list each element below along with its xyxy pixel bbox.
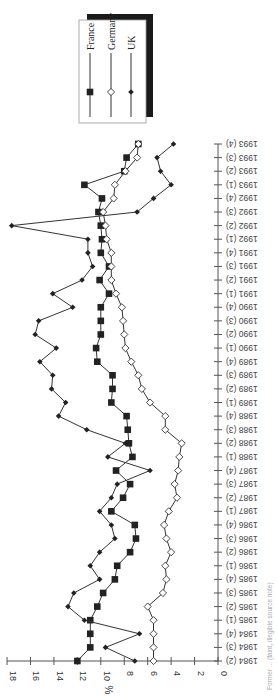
open-diamond-marker xyxy=(150,630,157,637)
legend-label-germany: Germany xyxy=(106,13,117,50)
footnote: Former ... (faint, illegible source note… xyxy=(266,582,274,690)
diamond-marker xyxy=(84,427,90,433)
category-tick-label: 1984 (3) xyxy=(226,642,258,652)
category-tick-label: 1993 (1) xyxy=(226,180,258,190)
diamond-marker xyxy=(32,332,38,338)
square-marker xyxy=(100,590,107,597)
diamond-marker xyxy=(137,631,143,637)
category-tick-label: 1987 (3) xyxy=(226,479,258,489)
open-diamond-marker xyxy=(163,576,170,583)
rotated-line-chart: 0246810121416181984 (2)1984 (3)1984 (4)1… xyxy=(0,0,277,700)
value-tick-label: 6 xyxy=(149,671,159,676)
square-marker xyxy=(81,182,88,189)
square-marker xyxy=(94,358,101,365)
category-tick-label: 1992 (4) xyxy=(226,193,258,203)
diamond-marker xyxy=(70,304,76,310)
diamond-marker xyxy=(147,468,153,474)
value-tick-label: 16 xyxy=(31,671,41,681)
series-line xyxy=(103,144,182,661)
square-marker xyxy=(129,454,136,461)
value-tick-label: 10 xyxy=(102,671,112,681)
value-tick-label: 14 xyxy=(55,671,65,681)
series-lines xyxy=(9,140,185,664)
square-marker xyxy=(124,426,131,433)
square-marker xyxy=(98,318,105,325)
open-diamond-marker xyxy=(168,549,175,556)
open-diamond-marker xyxy=(163,535,170,542)
square-marker xyxy=(123,413,130,420)
diamond-marker xyxy=(114,481,120,487)
legend-label-uk: UK xyxy=(126,35,137,50)
square-marker xyxy=(109,386,116,393)
value-tick-label: 4 xyxy=(172,671,182,676)
value-tick-label: 8 xyxy=(125,671,135,676)
open-diamond-marker xyxy=(108,276,115,283)
value-tick-label: 12 xyxy=(78,671,88,681)
category-tick-label: 1993 (3) xyxy=(226,153,258,163)
category-tick-label: 1987 (4) xyxy=(226,466,258,476)
category-tick-label: 1985 (2) xyxy=(226,602,258,612)
square-marker xyxy=(114,562,121,569)
square-marker xyxy=(113,467,120,474)
open-diamond-marker xyxy=(138,385,145,392)
diamond-marker xyxy=(103,645,109,651)
square-marker xyxy=(108,508,115,515)
category-tick-label: 1989 (3) xyxy=(226,370,258,380)
open-diamond-marker xyxy=(173,494,180,501)
category-tick-label: 1984 (4) xyxy=(226,629,258,639)
square-marker xyxy=(87,644,94,651)
open-diamond-marker xyxy=(150,617,157,624)
square-marker xyxy=(109,372,116,379)
open-diamond-marker xyxy=(171,481,178,488)
diamond-marker xyxy=(85,236,91,242)
category-tick-label: 1989 (4) xyxy=(226,357,258,367)
open-diamond-marker xyxy=(162,562,169,569)
axes: 0246810121416181984 (2)1984 (3)1984 (4)1… xyxy=(7,139,258,681)
category-tick-label: 1992 (1) xyxy=(226,234,258,244)
open-diamond-marker xyxy=(122,344,129,351)
value-tick-label: 18 xyxy=(8,671,18,681)
square-marker xyxy=(99,195,106,202)
category-tick-label: 1988 (3) xyxy=(226,425,258,435)
diamond-marker xyxy=(132,658,138,664)
category-tick-label: 1984 (2) xyxy=(226,656,258,666)
diamond-marker xyxy=(9,223,15,229)
square-marker xyxy=(87,89,94,96)
category-tick-label: 1988 (4) xyxy=(226,411,258,421)
category-tick-label: 1992 (2) xyxy=(226,221,258,231)
diamond-marker xyxy=(56,413,62,419)
value-tick-label: 2 xyxy=(196,671,206,676)
square-marker xyxy=(98,250,105,257)
category-tick-label: 1991 (4) xyxy=(226,248,258,258)
series-line xyxy=(77,144,138,661)
category-tick-label: 1987 (2) xyxy=(226,493,258,503)
open-diamond-marker xyxy=(176,453,183,460)
value-tick-label: 0 xyxy=(219,671,229,676)
category-tick-label: 1986 (2) xyxy=(226,547,258,557)
category-tick-label: 1990 (3) xyxy=(226,316,258,326)
category-tick-label: 1986 (3) xyxy=(226,534,258,544)
square-marker xyxy=(96,277,103,284)
category-tick-label: 1991 (1) xyxy=(226,289,258,299)
category-tick-label: 1988 (2) xyxy=(226,438,258,448)
category-tick-label: 1991 (2) xyxy=(226,275,258,285)
square-marker xyxy=(98,331,105,338)
diamond-marker xyxy=(85,250,91,256)
open-diamond-marker xyxy=(119,317,126,324)
open-diamond-marker xyxy=(128,358,135,365)
square-marker xyxy=(108,399,115,406)
open-diamond-marker xyxy=(118,304,125,311)
square-marker xyxy=(112,576,119,583)
category-tick-label: 1990 (2) xyxy=(226,329,258,339)
open-diamond-marker xyxy=(135,372,142,379)
legend-label-france: France xyxy=(85,22,96,50)
square-marker xyxy=(94,603,101,610)
square-marker xyxy=(93,345,100,352)
square-marker xyxy=(120,494,127,501)
open-diamond-marker xyxy=(108,249,115,256)
open-diamond-marker xyxy=(121,331,128,338)
category-tick-label: 1987 (1) xyxy=(226,506,258,516)
category-tick-label: 1989 (1) xyxy=(226,398,258,408)
series-france xyxy=(74,141,142,665)
open-diamond-marker xyxy=(112,290,119,297)
